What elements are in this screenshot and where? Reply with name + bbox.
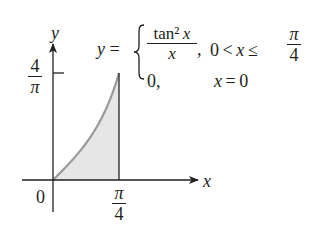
y-tick-denominator: π — [30, 78, 39, 96]
case1-comma: , — [197, 40, 202, 58]
case1-condition-fraction: π 4 — [287, 25, 301, 64]
condition-numerator: π — [289, 25, 298, 43]
case1-condition-text: 0 < x ≤ — [210, 40, 258, 60]
case1-denominator: x — [168, 45, 176, 62]
origin-label: 0 — [36, 188, 45, 206]
equation-lhs-text: y = — [97, 39, 121, 59]
y-axis-label: y — [51, 24, 59, 42]
x-tick-denominator: 4 — [115, 205, 124, 223]
y-tick-label-4-over-pi: 4 π — [28, 57, 42, 96]
case2-value: 0, — [147, 72, 161, 90]
y-tick-numerator: 4 — [31, 57, 40, 75]
area-under-curve-figure: y x 0 4 π π 4 y = tan² x x , 0 < x ≤ π — [0, 0, 326, 227]
case1-numerator: tan² x — [154, 25, 191, 42]
left-brace-icon — [133, 24, 147, 80]
x-tick-label-pi-over-4: π 4 — [112, 184, 126, 223]
shaded-region — [53, 73, 119, 180]
case1-fraction: tan² x x — [147, 25, 197, 62]
equation-lhs: y = — [97, 40, 121, 58]
condition-denominator: 4 — [290, 46, 299, 64]
case1-condition: 0 < x ≤ — [210, 41, 258, 59]
x-axis-label: x — [203, 172, 211, 190]
case2-condition: x = 0 — [214, 72, 248, 90]
x-tick-numerator: π — [114, 184, 123, 202]
